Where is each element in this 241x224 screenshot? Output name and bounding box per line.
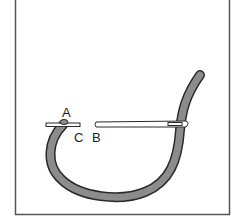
stitch-bar-left — [46, 120, 80, 127]
thread — [50, 75, 200, 197]
frame-border — [16, 0, 230, 215]
needle — [95, 121, 188, 127]
label-a: A — [62, 105, 71, 120]
stitch-diagram: A C B — [0, 0, 241, 224]
label-c: C — [74, 130, 83, 145]
label-b: B — [92, 130, 101, 145]
